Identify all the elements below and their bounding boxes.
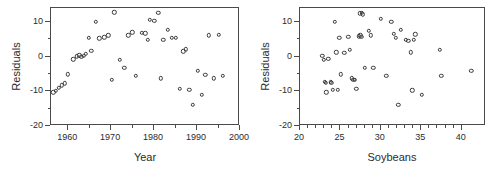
x-tick-minor <box>445 125 446 128</box>
data-point <box>207 33 211 37</box>
data-point <box>220 74 224 78</box>
data-point <box>406 38 410 42</box>
data-point <box>412 38 416 42</box>
data-point <box>324 90 328 94</box>
x-tick-label: 1980 <box>143 133 163 142</box>
y-tick-label: -20 <box>20 121 43 130</box>
x-axis-title-left: Year <box>134 152 156 163</box>
data-point <box>371 66 375 70</box>
data-point <box>112 10 116 14</box>
x-tick-minor <box>175 125 176 128</box>
data-point <box>348 48 352 52</box>
y-tick-major <box>294 56 299 57</box>
plot-area-right <box>299 7 485 125</box>
data-point <box>410 88 414 92</box>
data-point <box>342 51 346 55</box>
x-tick-minor <box>372 125 373 128</box>
x-tick-minor <box>218 125 219 128</box>
x-tick-minor <box>315 125 316 128</box>
data-point <box>159 76 163 80</box>
x-tick-minor <box>404 125 405 128</box>
x-tick-label: 30 <box>375 133 385 142</box>
data-point <box>217 33 221 37</box>
data-point <box>165 28 169 32</box>
y-tick-label: -10 <box>269 86 292 95</box>
x-tick-major <box>239 125 240 130</box>
y-axis-title-left: Residuals <box>11 37 22 97</box>
x-tick-minor <box>396 125 397 128</box>
y-tick-minor <box>48 38 51 39</box>
y-tick-label: 10 <box>20 16 43 25</box>
x-tick-major <box>299 125 300 130</box>
data-point <box>378 17 382 21</box>
x-tick-major <box>67 125 68 130</box>
y-tick-label: 0 <box>20 51 43 60</box>
x-tick-minor <box>323 125 324 128</box>
y-tick-label: 10 <box>269 16 292 25</box>
data-point <box>212 76 216 80</box>
data-point <box>323 81 327 85</box>
data-point <box>203 72 207 76</box>
y-tick-major <box>294 21 299 22</box>
y-tick-minor <box>297 108 300 109</box>
data-point <box>110 78 114 82</box>
data-point <box>143 31 147 35</box>
data-point <box>161 37 165 41</box>
x-tick-minor <box>89 125 90 128</box>
data-point <box>191 103 195 107</box>
x-axis-title-right: Soybeans <box>368 152 417 163</box>
data-point <box>178 86 182 90</box>
x-tick-minor <box>388 125 389 128</box>
x-tick-minor <box>331 125 332 128</box>
data-point <box>337 35 341 39</box>
data-point <box>369 33 373 37</box>
data-point <box>66 72 70 76</box>
x-tick-major <box>196 125 197 130</box>
y-tick-minor <box>48 73 51 74</box>
x-tick-label: 35 <box>415 133 425 142</box>
y-tick-major <box>45 21 50 22</box>
data-point <box>334 50 338 54</box>
data-point <box>331 87 335 91</box>
data-point <box>187 88 191 92</box>
x-tick-minor <box>436 125 437 128</box>
data-point <box>122 66 126 70</box>
data-point <box>413 32 417 36</box>
x-tick-label: 20 <box>294 133 304 142</box>
x-tick-major <box>380 125 381 130</box>
data-point <box>126 33 130 37</box>
data-point <box>332 20 336 24</box>
x-tick-label: 40 <box>456 133 466 142</box>
data-point <box>329 80 333 84</box>
x-tick-major <box>461 125 462 130</box>
y-tick-major <box>294 125 299 126</box>
y-tick-minor <box>48 108 51 109</box>
residual-scatter-figure: 19601970198019902000100-10-20 Year Resid… <box>0 0 499 172</box>
x-tick-label: 1990 <box>186 133 206 142</box>
data-point <box>145 38 149 42</box>
panel-soybeans-residuals: 2025303540100-10-20 Soybeans Residuals <box>250 0 499 172</box>
data-point <box>354 86 358 90</box>
plot-area-left <box>50 7 239 125</box>
data-point <box>384 74 388 78</box>
x-tick-minor <box>453 125 454 128</box>
panel-year-residuals: 19601970198019902000100-10-20 Year Resid… <box>0 0 249 172</box>
data-point <box>389 19 393 23</box>
data-point <box>359 34 363 38</box>
y-tick-major <box>45 90 50 91</box>
data-point <box>106 33 110 37</box>
data-point <box>408 50 412 54</box>
data-point <box>439 74 443 78</box>
data-point <box>130 30 134 34</box>
y-tick-major <box>294 90 299 91</box>
data-point <box>156 11 160 15</box>
data-point <box>152 19 156 23</box>
data-point <box>117 58 121 62</box>
data-point <box>469 68 473 72</box>
data-point <box>353 77 357 81</box>
data-point <box>362 66 366 70</box>
x-tick-label: 1960 <box>57 133 77 142</box>
data-point <box>174 36 178 40</box>
x-tick-minor <box>132 125 133 128</box>
data-point <box>336 88 340 92</box>
